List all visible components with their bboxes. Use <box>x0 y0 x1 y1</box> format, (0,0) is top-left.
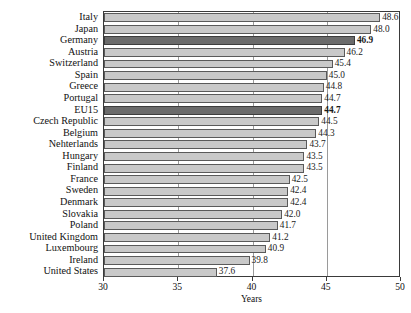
bar <box>104 210 282 219</box>
bar-row: 43.7 <box>104 139 399 151</box>
bar-value-label: 43.5 <box>304 151 322 163</box>
bar <box>104 117 319 126</box>
bar-value-label: 42.4 <box>288 197 306 209</box>
category-label: Slovakia <box>0 208 101 220</box>
bar <box>104 175 290 184</box>
bar-row: 48.0 <box>104 24 399 36</box>
bar-row: 44.8 <box>104 81 399 93</box>
bar <box>104 106 322 115</box>
bar <box>104 233 270 242</box>
bar-row: 48.6 <box>104 12 399 24</box>
bar-row: 43.5 <box>104 162 399 174</box>
category-axis-labels: ItalyJapanGermanyAustriaSwitzerlandSpain… <box>0 11 101 277</box>
category-label: Denmark <box>0 196 101 208</box>
bar-value-label: 46.2 <box>345 47 363 59</box>
category-label: Ireland <box>0 254 101 266</box>
bar-row: 39.8 <box>104 255 399 267</box>
bar-value-label: 44.5 <box>319 116 337 128</box>
bar-row: 41.7 <box>104 220 399 232</box>
x-axis-tick-label: 40 <box>247 281 257 292</box>
bar <box>104 25 371 34</box>
bar <box>104 36 355 45</box>
category-label: Japan <box>0 23 101 35</box>
category-label: Czech Republic <box>0 115 101 127</box>
bar <box>104 164 304 173</box>
category-label: Finland <box>0 161 101 173</box>
bar-value-label: 42.5 <box>290 174 308 186</box>
bar <box>104 48 345 57</box>
bar-value-label: 40.9 <box>266 243 284 255</box>
x-axis-tick-label: 30 <box>98 281 108 292</box>
category-label: Spain <box>0 69 101 81</box>
bar <box>104 152 304 161</box>
category-label: Greece <box>0 80 101 92</box>
bar-value-label: 45.0 <box>327 70 345 82</box>
bar-value-label: 45.4 <box>333 58 351 70</box>
bar-value-label: 46.9 <box>355 35 373 47</box>
bar-rows: 48.648.046.946.245.445.044.844.744.744.5… <box>104 12 399 276</box>
category-label: Italy <box>0 11 101 23</box>
bar-chart: ItalyJapanGermanyAustriaSwitzerlandSpain… <box>0 0 411 313</box>
category-label: Poland <box>0 219 101 231</box>
bar <box>104 13 380 22</box>
bar-value-label: 39.8 <box>250 255 268 267</box>
category-label: Germany <box>0 34 101 46</box>
bar-value-label: 44.3 <box>316 128 334 140</box>
category-label: United States <box>0 265 101 277</box>
bar-row: 44.5 <box>104 116 399 128</box>
bar-row: 42.5 <box>104 174 399 186</box>
bar-row: 45.0 <box>104 70 399 82</box>
bar-row: 44.3 <box>104 128 399 140</box>
bar-row: 40.9 <box>104 243 399 255</box>
x-axis-tick-label: 50 <box>395 281 405 292</box>
category-label: EU15 <box>0 104 101 116</box>
plot-area: 48.648.046.946.245.445.044.844.744.744.5… <box>103 11 400 277</box>
bar-row: 45.4 <box>104 58 399 70</box>
bar-value-label: 48.6 <box>380 12 398 24</box>
bar <box>104 60 333 69</box>
bar-row: 43.5 <box>104 151 399 163</box>
bar-row: 42.0 <box>104 209 399 221</box>
bar-row: 42.4 <box>104 185 399 197</box>
bar <box>104 198 288 207</box>
bar-row: 44.7 <box>104 105 399 117</box>
x-axis-tick-label: 35 <box>172 281 182 292</box>
bar <box>104 94 322 103</box>
bar-row: 46.2 <box>104 47 399 59</box>
bar <box>104 140 307 149</box>
bar <box>104 256 250 265</box>
bar-row: 42.4 <box>104 197 399 209</box>
bar-value-label: 41.2 <box>270 232 288 244</box>
category-label: Sweden <box>0 184 101 196</box>
bar <box>104 245 266 254</box>
x-axis-title: Years <box>103 294 400 304</box>
bar <box>104 129 316 138</box>
bar <box>104 71 327 80</box>
category-label: Switzerland <box>0 57 101 69</box>
category-label: Nehterlands <box>0 138 101 150</box>
category-label: Portugal <box>0 92 101 104</box>
x-axis-tick-label: 45 <box>321 281 331 292</box>
bar <box>104 187 288 196</box>
category-label: United Kingdom <box>0 231 101 243</box>
category-label: Hungary <box>0 150 101 162</box>
bar-value-label: 44.8 <box>324 81 342 93</box>
bar-row: 44.7 <box>104 93 399 105</box>
bar <box>104 83 324 92</box>
bar-value-label: 48.0 <box>371 24 389 36</box>
bar-value-label: 42.4 <box>288 185 306 197</box>
category-label: France <box>0 173 101 185</box>
bar <box>104 268 217 277</box>
bar-value-label: 43.5 <box>304 162 322 174</box>
category-label: Belgium <box>0 127 101 139</box>
bar <box>104 221 278 230</box>
category-label: Luxembourg <box>0 242 101 254</box>
bar-row: 46.9 <box>104 35 399 47</box>
bar-value-label: 43.7 <box>307 139 325 151</box>
bar-value-label: 42.0 <box>282 209 300 221</box>
bar-value-label: 44.7 <box>322 93 340 105</box>
x-axis: 3035404550 <box>103 277 400 293</box>
bar-value-label: 41.7 <box>278 220 296 232</box>
bar-row: 41.2 <box>104 232 399 244</box>
category-label: Austria <box>0 46 101 58</box>
